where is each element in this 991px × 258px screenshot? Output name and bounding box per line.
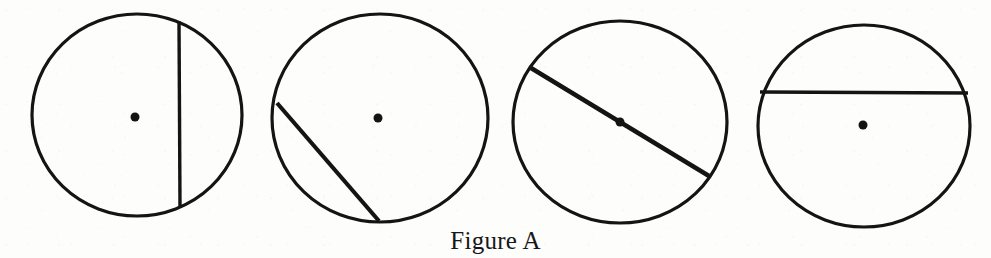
circle-1-center-dot [131, 113, 140, 122]
circle-2-center-dot [374, 114, 383, 123]
circle-2-group [272, 14, 488, 222]
circle-3-group [513, 21, 727, 223]
circle-4-group [758, 25, 970, 227]
figure-caption: Figure A [0, 226, 991, 256]
circle-4-center-dot [859, 121, 868, 130]
four-circles-diagram [0, 0, 991, 258]
circle-4-chord [760, 92, 968, 93]
circle-1-chord [179, 21, 180, 207]
circle-3-center-dot [616, 118, 625, 127]
figure-page: Figure A [0, 0, 991, 258]
circle-1-group [32, 14, 242, 216]
circle-2-chord [277, 103, 379, 221]
